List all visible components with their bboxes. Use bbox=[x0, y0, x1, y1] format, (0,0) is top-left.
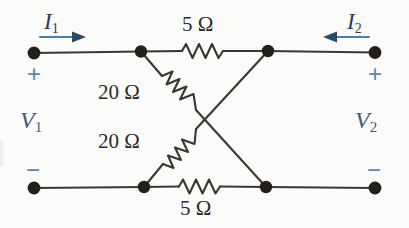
circuit-diagram-canvas: 5 Ω 5 Ω 20 Ω 20 Ω I1 I2 V1 V2 + − + − bbox=[0, 0, 409, 228]
polarity-right-top-plus: + bbox=[368, 62, 382, 86]
node-left-top-terminal bbox=[28, 47, 41, 60]
label-lower-diagonal-resistor: 20 Ω bbox=[98, 131, 140, 152]
wire-bottom-left bbox=[34, 187, 144, 188]
resistor-upper-20ohm-zigzag bbox=[162, 72, 196, 111]
node-inner-bottom-left bbox=[138, 181, 150, 193]
node-inner-top-right bbox=[262, 45, 274, 57]
voltage-v1-subscript: 1 bbox=[35, 119, 43, 135]
node-inner-top-left bbox=[135, 45, 147, 57]
polarity-left-top-plus: + bbox=[27, 62, 41, 86]
current-arrowhead-right bbox=[323, 32, 337, 43]
label-bottom-series-resistor: 5 Ω bbox=[180, 198, 211, 219]
polarity-left-bottom-minus: − bbox=[26, 158, 40, 182]
current-i1-subscript: 1 bbox=[52, 21, 59, 36]
wire-diagonal-topleft-to-bottomright bbox=[196, 110, 266, 187]
node-left-bottom-terminal bbox=[28, 182, 41, 195]
wire-bottom-resistor-lead-right bbox=[220, 187, 266, 188]
current-i2-symbol: I bbox=[347, 9, 355, 34]
wire-bottom-right bbox=[266, 187, 375, 188]
current-arrowhead-left bbox=[72, 32, 86, 43]
wire-top-left bbox=[34, 52, 141, 54]
node-inner-bottom-right bbox=[260, 181, 272, 193]
voltage-v2-symbol: V bbox=[355, 107, 370, 133]
wire-top-right bbox=[268, 51, 375, 53]
wire-diagonal-bottomleft-to-topright bbox=[196, 51, 268, 129]
node-right-bottom-terminal bbox=[369, 182, 382, 195]
voltage-v1-symbol: V bbox=[20, 107, 35, 133]
node-right-top-terminal bbox=[369, 46, 382, 59]
label-top-series-resistor: 5 Ω bbox=[182, 14, 213, 35]
current-i2-subscript: 2 bbox=[355, 21, 362, 36]
label-current-i1: I1 bbox=[44, 10, 59, 33]
resistor-lower-20ohm-zigzag bbox=[163, 129, 196, 168]
label-voltage-v2: V2 bbox=[355, 108, 377, 132]
voltage-v2-subscript: 2 bbox=[370, 119, 378, 135]
resistor-bottom-5ohm-zigzag bbox=[179, 180, 220, 194]
label-voltage-v1: V1 bbox=[20, 108, 42, 132]
current-i1-symbol: I bbox=[44, 9, 52, 34]
resistor-top-5ohm-zigzag bbox=[182, 44, 223, 58]
label-current-i2: I2 bbox=[347, 10, 362, 33]
label-upper-diagonal-resistor: 20 Ω bbox=[98, 82, 140, 103]
polarity-right-bottom-minus: − bbox=[367, 158, 381, 182]
